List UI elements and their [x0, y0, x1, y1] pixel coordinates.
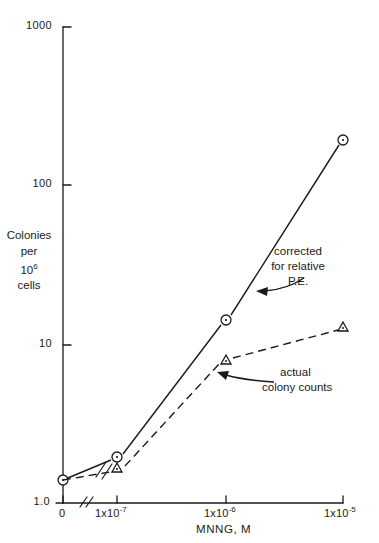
data-point-triangle: [338, 322, 348, 331]
annotation-actual-line-1: actual: [262, 365, 379, 380]
x-tick-label-1e-7-exponent: -7: [120, 505, 127, 514]
y-axis-title: Colonies per 106 cells: [0, 228, 58, 294]
data-point-triangle: [221, 355, 231, 364]
y-axis-title-line-2: per: [0, 244, 58, 260]
y-tick-label-100: 100: [2, 178, 52, 190]
y-tick-label-10: 10: [2, 338, 52, 350]
y-axis-title-line-1: Colonies: [0, 228, 58, 244]
x-tick-label-1e-7-mantissa: 1x10: [95, 507, 120, 519]
y-axis-title-line-4: cells: [0, 278, 58, 294]
series-corrected-marker-dots: [62, 139, 344, 481]
x-axis-title: MNNG, M: [196, 523, 251, 535]
x-tick-label-1e-6: 1x10-6: [204, 506, 236, 519]
x-tick-label-1e-5-mantissa: 1x10: [324, 507, 349, 519]
x-tick-label-1e-5-exponent: -5: [349, 505, 356, 514]
annotation-corrected-for-relative-pe: corrected for relative P.E.: [243, 244, 353, 289]
x-tick-label-1e-6-mantissa: 1x10: [204, 507, 229, 519]
series-actual-markers: [112, 322, 348, 472]
annotation-actual-colony-counts: actual colony counts: [262, 365, 379, 395]
annotation-corrected-line-3: P.E.: [243, 274, 353, 289]
y-axis-title-base: 10: [20, 264, 33, 276]
annotation-actual-line-2: colony counts: [262, 380, 379, 395]
x-tick-label-1e-5: 1x10-5: [324, 506, 356, 519]
y-tick-label-1: 1.0: [2, 496, 50, 508]
series-corrected-markers: [58, 135, 348, 485]
x-tick-label-0: 0: [59, 508, 65, 520]
series-corrected-line: [63, 145, 339, 480]
y-tick-label-1000: 1000: [2, 20, 52, 32]
y-axis-title-line-3: 106: [0, 259, 58, 278]
y-axis-title-exponent: 6: [33, 262, 37, 271]
x-tick-label-1e-6-exponent: -6: [229, 505, 236, 514]
x-axis-break-mark: [80, 497, 93, 507]
annotation-corrected-line-2: for relative: [243, 259, 353, 274]
figure-chart-mnng-colonies: 1000 100 10 1.0 0 1x10-7 1x10-6 1x10-5 M…: [0, 0, 379, 543]
x-tick-label-1e-7: 1x10-7: [95, 506, 127, 519]
series-actual-marker-dots: [116, 327, 344, 470]
data-point-triangle: [112, 463, 122, 472]
annotation-corrected-line-1: corrected: [243, 244, 353, 259]
